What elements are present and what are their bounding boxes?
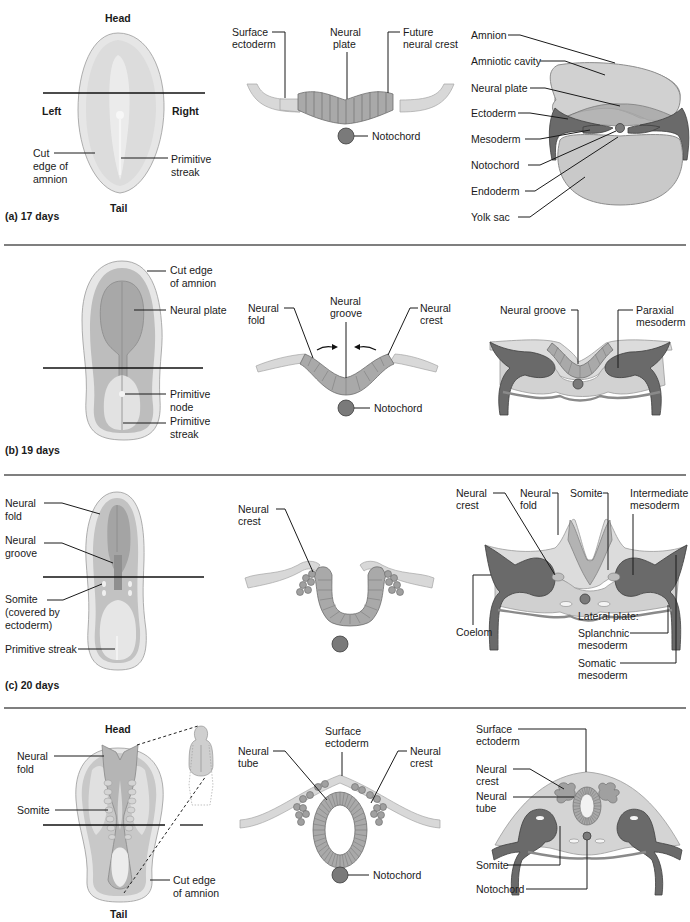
yolk-sac-label: Yolk sac: [471, 211, 510, 223]
neural-tube-label: Neural: [238, 745, 269, 757]
primitive-streak-label: Primitive: [170, 415, 210, 427]
neural-groove-label: Neural: [330, 295, 361, 307]
surface-ectoderm-label: ectoderm: [232, 38, 276, 50]
head-label: Head: [105, 12, 131, 24]
paraxial-mesoderm-label: Paraxial: [636, 304, 674, 316]
primitive-streak-label: streak: [170, 428, 199, 440]
neural-crest-label: Neural: [238, 503, 269, 515]
embryo-silhouette-inset: [189, 726, 213, 805]
surface-ectoderm-label: ectoderm: [476, 735, 520, 747]
neural-fold-label: Neural: [5, 497, 36, 509]
panel-b: Cut edge of amnion Neural plate Primitiv…: [5, 261, 686, 456]
somite-label: Somite: [570, 487, 603, 499]
neural-crest-label: crest: [476, 775, 499, 787]
amniotic-cavity-label: Amniotic cavity: [471, 55, 542, 67]
neural-fold-label: fold: [17, 763, 34, 775]
right-label: Right: [172, 105, 199, 117]
neural-crest-label: Neural: [476, 763, 507, 775]
neural-plate-label: Neural plate: [471, 82, 528, 94]
ectoderm-label: Ectoderm: [471, 107, 516, 119]
cross-section-b: [490, 340, 672, 415]
cut-edge-amnion-label: Cut: [33, 147, 49, 159]
notochord-label: Notochord: [471, 159, 520, 171]
cut-edge-amnion-label: of amnion: [173, 887, 219, 899]
neural-fold-label: fold: [248, 314, 265, 326]
paraxial-mesoderm-label: mesoderm: [636, 316, 686, 328]
neurulation-figure: Head Tail Left Right Cut edge of amnion …: [0, 0, 690, 922]
embryo-dorsal-view-a: [78, 33, 164, 193]
primitive-streak-label: Primitive streak: [5, 643, 78, 655]
notochord-label: Notochord: [373, 869, 422, 881]
cut-edge-amnion-label: of amnion: [170, 277, 216, 289]
left-label: Left: [42, 105, 62, 117]
neural-fold-label: Neural: [248, 302, 279, 314]
panel-caption: (b) 19 days: [5, 444, 60, 456]
neural-crest-label: Neural: [456, 487, 487, 499]
notochord-label: Notochord: [374, 402, 423, 414]
neural-groove-label: groove: [5, 547, 37, 559]
notochord: [338, 400, 354, 416]
somatic-mesoderm-label: Somatic: [578, 657, 616, 669]
panel-caption: (a) 17 days: [5, 210, 59, 222]
surface-ectoderm-label: Surface: [232, 26, 268, 38]
surface-ectoderm-label: Surface: [476, 723, 512, 735]
future-neural-crest-label: neural crest: [403, 38, 458, 50]
somite-label: ectoderm): [5, 619, 52, 631]
future-neural-crest-label: Future: [403, 26, 434, 38]
neural-plate-label: Neural: [330, 26, 361, 38]
mesoderm-label: Mesoderm: [471, 133, 521, 145]
neural-fold-label: Neural: [520, 487, 551, 499]
primitive-node-label: Primitive: [170, 388, 210, 400]
cut-edge-amnion-label: edge of: [33, 160, 68, 172]
panel-caption: (c) 20 days: [5, 679, 59, 691]
cut-edge-amnion-label: Cut edge: [170, 264, 213, 276]
neural-fold-label: Neural: [17, 750, 48, 762]
notochord-label: Notochord: [372, 130, 421, 142]
notochord-label: Notochord: [476, 883, 525, 895]
neural-crest-label: crest: [238, 515, 261, 527]
amnion-label: Amnion: [471, 29, 507, 41]
tail-label: Tail: [110, 202, 127, 214]
primitive-streak-label: Primitive: [171, 153, 211, 165]
primitive-node-label: node: [170, 401, 194, 413]
embryo-dorsal-view-c: [86, 492, 147, 670]
intermediate-mesoderm-label: Intermediate: [630, 487, 689, 499]
intermediate-mesoderm-label: mesoderm: [630, 499, 680, 511]
somite-label: Somite: [5, 593, 38, 605]
neural-tube-label: tube: [238, 757, 259, 769]
notochord: [332, 636, 348, 652]
cut-edge-amnion-label: Cut edge: [173, 874, 216, 886]
neural-tube-label: Neural: [476, 790, 507, 802]
lateral-plate-label: Lateral plate:: [578, 610, 639, 622]
embryo-dorsal-view-d: [76, 745, 163, 902]
coelom-label: Coelom: [456, 626, 492, 638]
splanchnic-mesoderm-label: mesoderm: [578, 639, 628, 651]
neural-tube-section-d: [240, 775, 440, 883]
neural-crest-label: Neural: [420, 302, 451, 314]
neural-fold-label: fold: [5, 510, 22, 522]
notochord: [332, 867, 348, 883]
neural-fold-label: fold: [520, 499, 537, 511]
neural-crest-label: crest: [410, 757, 433, 769]
panel-d: Head Tail Neural fold Somite Cut edge of…: [17, 723, 682, 920]
neural-groove-label: groove: [330, 307, 362, 319]
head-label: Head: [105, 723, 131, 735]
endoderm-label: Endoderm: [471, 185, 520, 197]
somite-label: Somite: [476, 859, 509, 871]
neural-groove-label: Neural groove: [500, 304, 566, 316]
somite-label: (covered by: [5, 606, 61, 618]
surface-ectoderm-label: ectoderm: [325, 737, 369, 749]
neural-crest-label: crest: [420, 314, 443, 326]
neural-crest-label: Neural: [410, 745, 441, 757]
embryo-dorsal-view-b: [82, 261, 162, 440]
somite-label: Somite: [17, 804, 50, 816]
somatic-mesoderm-label: mesoderm: [578, 669, 628, 681]
cut-edge-amnion-label: amnion: [33, 173, 68, 185]
neural-folds-section-c: [245, 561, 434, 652]
notochord: [338, 128, 354, 144]
neural-groove-label: Neural: [5, 534, 36, 546]
panel-c: Neural fold Neural groove Somite (covere…: [5, 487, 689, 691]
panel-a: Head Tail Left Right Cut edge of amnion …: [5, 12, 689, 223]
neural-crest-label: crest: [456, 499, 479, 511]
neural-plate-label: plate: [333, 38, 356, 50]
